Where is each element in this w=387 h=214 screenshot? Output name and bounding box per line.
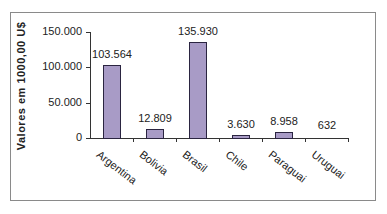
x-tick — [133, 138, 134, 142]
y-tick — [86, 138, 90, 139]
y-axis-label: Valores em 1000,00 U$ — [15, 22, 27, 151]
y-tick — [86, 67, 90, 68]
y-tick-label: 0 — [32, 131, 82, 143]
x-tick — [219, 138, 220, 142]
y-tick — [86, 32, 90, 33]
y-tick-label: 150.000 — [32, 25, 82, 37]
bar-brasil — [189, 42, 207, 139]
y-tick-label: 100.000 — [32, 60, 82, 72]
bar-argentina — [103, 65, 121, 139]
bar-paraguai — [275, 132, 293, 139]
data-label: 135.930 — [173, 25, 223, 37]
data-label: 12.809 — [130, 112, 180, 124]
y-tick-label: 50.000 — [32, 96, 82, 108]
bar-chile — [232, 135, 250, 139]
x-tick — [176, 138, 177, 142]
x-tick — [348, 138, 349, 142]
y-tick — [86, 103, 90, 104]
x-tick — [305, 138, 306, 142]
bar-bolivia — [146, 129, 164, 139]
data-label: 103.564 — [87, 48, 137, 60]
x-tick — [262, 138, 263, 142]
data-label: 632 — [302, 119, 352, 131]
